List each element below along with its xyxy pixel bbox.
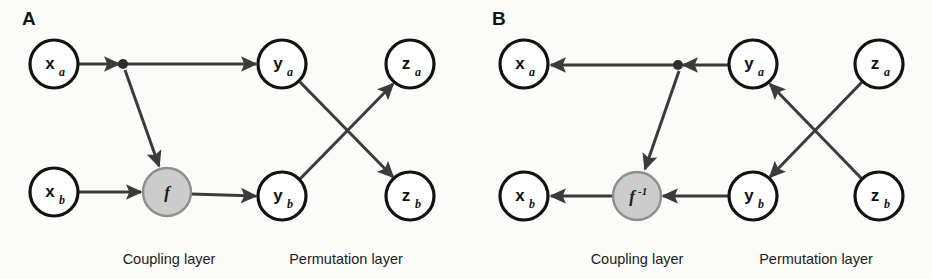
node-panel-b-xa[interactable]: xa [500, 40, 548, 88]
node-panel-a-za[interactable]: za [386, 40, 434, 88]
node-subscript-zb: b [415, 197, 421, 211]
node-subscript-za: a [415, 65, 421, 79]
caption-coupling-a: Coupling layer [123, 251, 216, 267]
caption-permutation-b: Permutation layer [759, 251, 873, 267]
junction-b [673, 60, 683, 70]
node-panel-b-xb[interactable]: xb [500, 172, 548, 220]
node-panel-a-yb[interactable]: yb [258, 172, 306, 220]
node-label-ya: y [273, 54, 283, 73]
node-subscript-ya: a [287, 65, 293, 79]
node-panel-b-ya[interactable]: ya [729, 40, 777, 88]
node-subscript-yb: b [287, 197, 293, 211]
node-panel-a-f[interactable]: f [143, 168, 191, 216]
node-panel-a-xb[interactable]: xb [30, 168, 78, 216]
node-circle-finv[interactable] [613, 172, 661, 220]
figure-background [0, 0, 932, 279]
node-subscript-zb: b [884, 197, 890, 211]
caption-coupling-b: Coupling layer [591, 251, 684, 267]
node-subscript-xb: b [59, 193, 65, 207]
node-panel-a-ya[interactable]: ya [258, 40, 306, 88]
node-label-zb: z [871, 186, 880, 205]
flow-diagram-svg: AxaxbfyaybzazbCoupling layerPermutation … [0, 0, 932, 279]
caption-permutation-a: Permutation layer [289, 251, 403, 267]
panel-letter-a: A [22, 8, 36, 29]
node-label-yb: y [273, 186, 283, 205]
junction-a [118, 59, 128, 69]
node-panel-b-za[interactable]: za [855, 40, 903, 88]
node-label-yb: y [744, 186, 754, 205]
figure-root: AxaxbfyaybzazbCoupling layerPermutation … [0, 0, 932, 279]
node-subscript-yb: b [758, 197, 764, 211]
node-panel-a-xa[interactable]: xa [30, 40, 78, 88]
node-label-xb: x [45, 182, 55, 201]
node-panel-b-finv[interactable]: f-1 [613, 172, 661, 220]
node-label-xa: x [515, 54, 525, 73]
node-superscript-finv: -1 [638, 185, 647, 197]
node-label-xa: x [45, 54, 55, 73]
node-subscript-ya: a [758, 65, 764, 79]
node-label-ya: y [744, 54, 754, 73]
node-subscript-xa: a [529, 65, 535, 79]
node-label-za: z [871, 54, 880, 73]
node-subscript-xb: b [529, 197, 535, 211]
node-label-zb: z [402, 186, 411, 205]
node-subscript-za: a [884, 65, 890, 79]
node-panel-b-yb[interactable]: yb [729, 172, 777, 220]
node-label-xb: x [515, 186, 525, 205]
node-label-za: z [402, 54, 411, 73]
node-panel-b-zb[interactable]: zb [855, 172, 903, 220]
panel-letter-b: B [492, 8, 506, 29]
node-panel-a-zb[interactable]: zb [386, 172, 434, 220]
edge-f-to-yb [191, 194, 256, 196]
node-subscript-xa: a [59, 65, 65, 79]
